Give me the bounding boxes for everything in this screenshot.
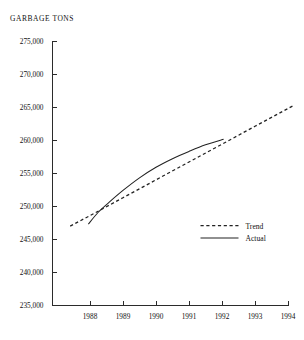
x-axis-tick-label: 1992 <box>215 312 230 321</box>
y-axis-tick-label: 245,000 <box>20 235 44 244</box>
x-axis-tick-label: 1989 <box>116 312 131 321</box>
y-axis-tick-labels: 235,000240,000245,000250,000255,000260,0… <box>20 37 44 311</box>
y-axis-tick-label: 265,000 <box>20 103 44 112</box>
y-axis-tick-label: 240,000 <box>20 268 44 277</box>
chart-container: GARBAGE TONS 235,000240,000245,000250,00… <box>0 0 304 340</box>
x-axis-tick-labels: 1988198919901991199219931994 <box>83 312 296 321</box>
chart-legend: TrendActual <box>201 222 266 244</box>
line-chart-plot: 235,000240,000245,000250,000255,000260,0… <box>0 0 304 340</box>
series-line-trend <box>70 106 293 226</box>
legend-label-trend: Trend <box>246 222 264 231</box>
y-axis-tick-label: 255,000 <box>20 169 44 178</box>
y-axis-tick-label: 275,000 <box>20 37 44 46</box>
x-axis-tick-label: 1988 <box>83 312 98 321</box>
x-axis-tick-label: 1991 <box>182 312 197 321</box>
y-axis-tick-label: 260,000 <box>20 136 44 145</box>
x-axis-tick-marks <box>90 301 288 306</box>
y-axis-tick-label: 235,000 <box>20 301 44 310</box>
legend-label-actual: Actual <box>246 234 266 243</box>
x-axis-tick-label: 1990 <box>149 312 164 321</box>
x-axis-tick-label: 1994 <box>281 312 296 321</box>
y-axis-tick-label: 270,000 <box>20 70 44 79</box>
y-axis-tick-label: 250,000 <box>20 202 44 211</box>
series-line-actual <box>88 139 223 224</box>
y-axis-tick-marks <box>53 41 58 306</box>
x-axis-tick-label: 1993 <box>248 312 263 321</box>
